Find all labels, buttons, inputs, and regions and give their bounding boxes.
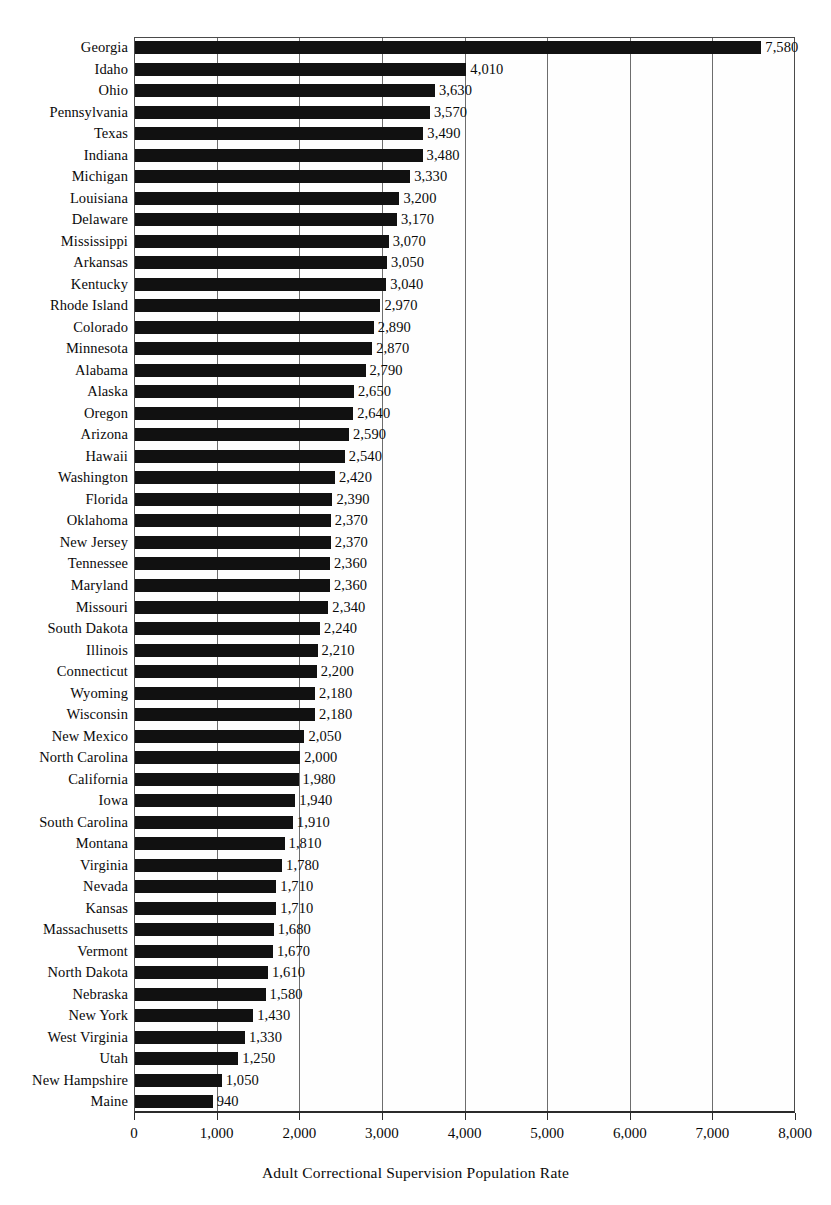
bar-row: Alabama2,790 — [0, 360, 831, 382]
bar-row: Arizona2,590 — [0, 424, 831, 446]
x-tick-label: 1,000 — [177, 1123, 257, 1143]
bar-row: Missouri2,340 — [0, 597, 831, 619]
bar-row: California1,980 — [0, 769, 831, 791]
bar — [135, 622, 320, 635]
x-tick-label: 2,000 — [259, 1123, 339, 1143]
bar-value-label: 2,340 — [332, 597, 365, 619]
bar — [135, 536, 331, 549]
bar-value-label: 1,330 — [249, 1027, 282, 1049]
category-label: Connecticut — [0, 661, 128, 683]
bar-value-label: 1,430 — [257, 1005, 290, 1027]
bar-value-label: 2,360 — [334, 575, 367, 597]
bar-value-label: 3,490 — [427, 123, 460, 145]
bar — [135, 1095, 213, 1108]
x-tick-2000 — [299, 1113, 300, 1120]
category-label: New Hampshire — [0, 1070, 128, 1092]
bar-value-label: 2,590 — [353, 424, 386, 446]
x-tick-1000 — [217, 1113, 218, 1120]
bar-value-label: 1,610 — [272, 962, 305, 984]
bar-row: South Carolina1,910 — [0, 812, 831, 834]
category-label: Idaho — [0, 59, 128, 81]
x-tick-0 — [134, 1113, 135, 1120]
bar-row: Alaska2,650 — [0, 381, 831, 403]
bar-row: West Virginia1,330 — [0, 1027, 831, 1049]
bar-value-label: 3,050 — [391, 252, 424, 274]
bar — [135, 751, 300, 764]
category-label: Utah — [0, 1048, 128, 1070]
bar-row: Idaho4,010 — [0, 59, 831, 81]
bar — [135, 859, 282, 872]
bar — [135, 902, 276, 915]
bar-value-label: 1,670 — [277, 941, 310, 963]
bar — [135, 1009, 253, 1022]
category-label: Kansas — [0, 898, 128, 920]
bar — [135, 84, 435, 97]
bar-row: Oregon2,640 — [0, 403, 831, 425]
bar-value-label: 1,980 — [303, 769, 336, 791]
x-tick-label: 0 — [94, 1123, 174, 1143]
bar-value-label: 1,580 — [270, 984, 303, 1006]
bar — [135, 471, 335, 484]
bar-value-label: 1,710 — [280, 898, 313, 920]
bar-row: Kansas1,710 — [0, 898, 831, 920]
bar-value-label: 2,200 — [321, 661, 354, 683]
bar — [135, 364, 366, 377]
bar — [135, 235, 389, 248]
bar-row: Texas3,490 — [0, 123, 831, 145]
bar-row: Minnesota2,870 — [0, 338, 831, 360]
bar-rows: Georgia7,580Idaho4,010Ohio3,630Pennsylva… — [0, 0, 831, 1113]
bar-row: Massachusetts1,680 — [0, 919, 831, 941]
category-label: Maine — [0, 1091, 128, 1113]
bar-value-label: 3,570 — [434, 102, 467, 124]
bar-value-label: 3,040 — [390, 274, 423, 296]
bar — [135, 514, 331, 527]
bar-value-label: 2,180 — [319, 704, 352, 726]
bar-row: Delaware3,170 — [0, 209, 831, 231]
bar-value-label: 1,050 — [226, 1070, 259, 1092]
bar-row: Iowa1,940 — [0, 790, 831, 812]
category-label: Nebraska — [0, 984, 128, 1006]
bar-value-label: 1,250 — [242, 1048, 275, 1070]
category-label: Indiana — [0, 145, 128, 167]
category-label: Texas — [0, 123, 128, 145]
category-label: Ohio — [0, 80, 128, 102]
bar-value-label: 2,540 — [349, 446, 382, 468]
bar-row: Colorado2,890 — [0, 317, 831, 339]
bar — [135, 321, 374, 334]
category-label: New Jersey — [0, 532, 128, 554]
bar — [135, 923, 274, 936]
bar-row: Pennsylvania3,570 — [0, 102, 831, 124]
category-label: Colorado — [0, 317, 128, 339]
bar-row: Maine940 — [0, 1091, 831, 1113]
bar-value-label: 1,680 — [278, 919, 311, 941]
bar-value-label: 2,000 — [304, 747, 337, 769]
category-label: Alabama — [0, 360, 128, 382]
bar — [135, 687, 315, 700]
category-label: Kentucky — [0, 274, 128, 296]
bar — [135, 579, 330, 592]
bar-row: Ohio3,630 — [0, 80, 831, 102]
x-tick-4000 — [465, 1113, 466, 1120]
category-label: West Virginia — [0, 1027, 128, 1049]
bar-row: Maryland2,360 — [0, 575, 831, 597]
bar — [135, 450, 345, 463]
bar-row: New Hampshire1,050 — [0, 1070, 831, 1092]
bar-value-label: 3,170 — [401, 209, 434, 231]
bar-row: Georgia7,580 — [0, 37, 831, 59]
bar-row: Montana1,810 — [0, 833, 831, 855]
bar — [135, 299, 380, 312]
bar-row: Virginia1,780 — [0, 855, 831, 877]
x-tick-label: 3,000 — [342, 1123, 422, 1143]
x-tick-7000 — [712, 1113, 713, 1120]
bar-row: Michigan3,330 — [0, 166, 831, 188]
category-label: Alaska — [0, 381, 128, 403]
bar — [135, 665, 317, 678]
bar-value-label: 3,480 — [427, 145, 460, 167]
bar-value-label: 1,940 — [299, 790, 332, 812]
bar-value-label: 3,200 — [403, 188, 436, 210]
bar — [135, 213, 397, 226]
bar-row: New Mexico2,050 — [0, 726, 831, 748]
bar-value-label: 2,180 — [319, 683, 352, 705]
bar-row: Utah1,250 — [0, 1048, 831, 1070]
bar-value-label: 3,630 — [439, 80, 472, 102]
